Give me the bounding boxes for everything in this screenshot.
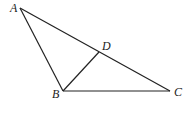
segment-AC [20, 8, 170, 91]
segment-BD [63, 52, 99, 91]
label-C: C [174, 85, 183, 99]
geometry-diagram: A B C D [0, 0, 195, 117]
label-A: A [9, 1, 18, 15]
label-D: D [101, 39, 111, 53]
label-B: B [52, 87, 60, 101]
